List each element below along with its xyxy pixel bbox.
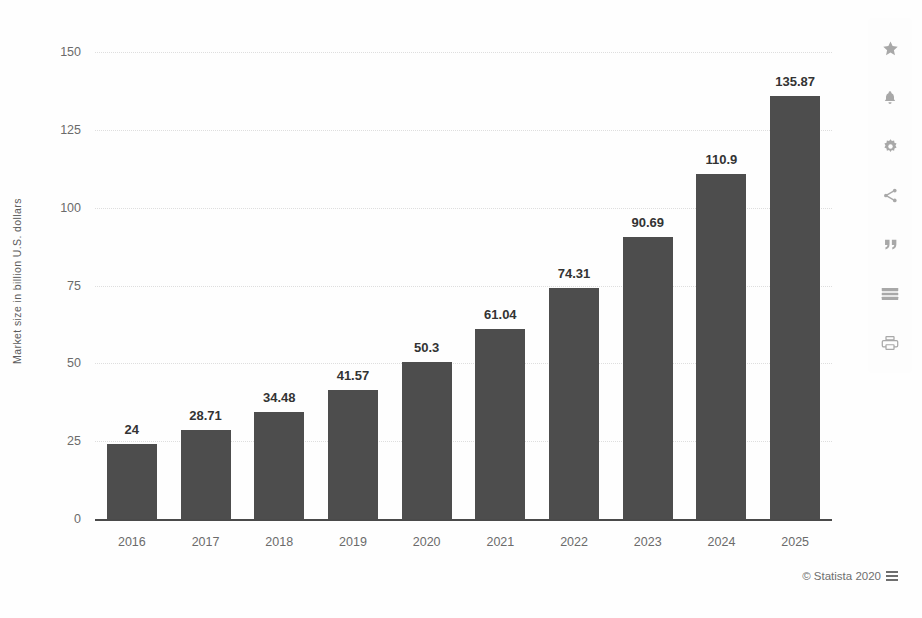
bar-slot: 61.04 bbox=[464, 52, 538, 519]
share-button[interactable] bbox=[868, 171, 912, 220]
x-tick-label: 2020 bbox=[390, 535, 464, 549]
bar[interactable] bbox=[254, 412, 304, 519]
x-tick-label: 2025 bbox=[758, 535, 832, 549]
bar-value-label: 90.69 bbox=[611, 215, 685, 230]
plot-area: 0255075100125150 2428.7134.4841.5750.361… bbox=[95, 52, 832, 519]
y-axis-title: Market size in billion U.S. dollars bbox=[11, 116, 23, 446]
star-icon bbox=[882, 40, 899, 57]
bar[interactable] bbox=[475, 329, 525, 519]
table-view-button[interactable] bbox=[868, 269, 912, 318]
bar-slot: 135.87 bbox=[758, 52, 832, 519]
notification-button[interactable] bbox=[868, 73, 912, 122]
bar-slot: 90.69 bbox=[611, 52, 685, 519]
y-tick-label: 125 bbox=[60, 123, 81, 137]
bar-value-label: 110.9 bbox=[685, 152, 759, 167]
printer-icon bbox=[881, 335, 899, 351]
citation-button[interactable] bbox=[868, 220, 912, 269]
x-tick-label: 2022 bbox=[537, 535, 611, 549]
y-tick-label: 50 bbox=[67, 356, 81, 370]
gear-icon bbox=[882, 138, 899, 155]
chart-page: Market size in billion U.S. dollars 0255… bbox=[0, 0, 922, 618]
bar[interactable] bbox=[107, 444, 157, 519]
bar-slot: 24 bbox=[95, 52, 169, 519]
bar[interactable] bbox=[770, 96, 820, 519]
bar-value-label: 135.87 bbox=[758, 74, 832, 89]
settings-button[interactable] bbox=[868, 122, 912, 171]
x-tick-label: 2017 bbox=[169, 535, 243, 549]
credit-line: © Statista 2020 bbox=[802, 570, 898, 582]
bar-slot: 50.3 bbox=[390, 52, 464, 519]
bar-value-label: 41.57 bbox=[316, 368, 390, 383]
flag-icon bbox=[886, 571, 898, 581]
bar[interactable] bbox=[696, 174, 746, 519]
favorite-button[interactable] bbox=[868, 24, 912, 73]
bar-slot: 41.57 bbox=[316, 52, 390, 519]
y-tick-label: 150 bbox=[60, 45, 81, 59]
y-tick-label: 0 bbox=[74, 512, 81, 526]
bar[interactable] bbox=[402, 362, 452, 519]
bar[interactable] bbox=[549, 288, 599, 519]
y-tick-label: 25 bbox=[67, 434, 81, 448]
bar-slot: 28.71 bbox=[169, 52, 243, 519]
bar-slot: 34.48 bbox=[242, 52, 316, 519]
bar-value-label: 61.04 bbox=[464, 307, 538, 322]
bar[interactable] bbox=[623, 237, 673, 519]
table-icon bbox=[881, 287, 899, 301]
quote-icon bbox=[882, 237, 899, 252]
bar-value-label: 34.48 bbox=[242, 390, 316, 405]
x-tick-label: 2016 bbox=[95, 535, 169, 549]
chart-toolbar bbox=[868, 18, 912, 373]
x-tick-label: 2021 bbox=[464, 535, 538, 549]
x-tick-label: 2018 bbox=[242, 535, 316, 549]
x-axis-line bbox=[95, 519, 832, 521]
share-icon bbox=[882, 187, 899, 204]
bar-slot: 74.31 bbox=[537, 52, 611, 519]
print-button[interactable] bbox=[868, 318, 912, 367]
x-tick-label: 2023 bbox=[611, 535, 685, 549]
y-tick-label: 100 bbox=[60, 201, 81, 215]
x-tick-label: 2019 bbox=[316, 535, 390, 549]
bar[interactable] bbox=[328, 390, 378, 519]
bell-icon bbox=[882, 89, 898, 106]
x-tick-label: 2024 bbox=[685, 535, 759, 549]
bar-value-label: 74.31 bbox=[537, 266, 611, 281]
bar-chart-figure: Market size in billion U.S. dollars 0255… bbox=[0, 0, 840, 600]
credit-text: © Statista 2020 bbox=[802, 570, 881, 582]
bar-value-label: 24 bbox=[95, 422, 169, 437]
bar[interactable] bbox=[181, 430, 231, 519]
y-tick-label: 75 bbox=[67, 279, 81, 293]
bar-slot: 110.9 bbox=[685, 52, 759, 519]
bar-value-label: 50.3 bbox=[390, 340, 464, 355]
bar-value-label: 28.71 bbox=[169, 408, 243, 423]
